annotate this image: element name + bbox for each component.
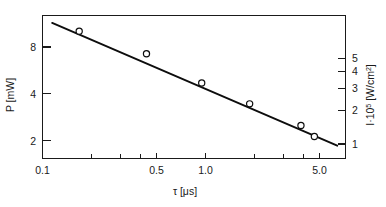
y-tick-label-right: 1 [352,138,358,150]
data-point [76,28,82,34]
data-point [311,133,317,139]
y-tick-label-left: 8 [30,41,36,53]
data-point [298,122,304,128]
x-tick-label: 0.1 [35,164,50,176]
x-tick-label: 1.0 [198,164,213,176]
x-axis-title: τ [μs] [173,185,197,197]
data-point-markers [76,28,317,139]
y-axis-left-ticks [43,47,51,141]
chart-figure: 0.1 0.5 1.0 5.0 τ [μs] 8 4 2 P [mW] [0,0,386,207]
y-axis-title-right: I·105 [W/cm2] [364,64,376,126]
y-tick-label-right: 4 [352,65,358,77]
y-tick-label-left: 4 [30,88,36,100]
x-tick-label: 0.5 [149,164,164,176]
data-point [247,101,253,107]
y-tick-label-right: 3 [352,82,358,94]
fit-line [52,23,337,146]
right-title-tail: [W/cm [364,71,376,104]
x-axis-tick-labels: 0.1 0.5 1.0 5.0 [35,164,327,176]
data-point [143,51,149,57]
right-title-main: I·10 [364,107,376,125]
chart-svg: 0.1 0.5 1.0 5.0 τ [μs] 8 4 2 P [mW] [0,0,386,207]
y-axis-right-ticks [338,59,346,144]
y-tick-label-right: 2 [352,104,358,116]
data-point [199,80,205,86]
y-axis-title-left: P [mW] [4,78,16,112]
y-axis-right-tick-labels: 1 2 3 4 5 [352,52,358,149]
plot-frame [43,16,346,159]
right-title-end: ] [364,64,376,67]
y-tick-label-left: 2 [30,135,36,147]
y-tick-label-right: 5 [352,52,358,64]
y-axis-left-tick-labels: 8 4 2 [30,41,36,147]
x-tick-label: 5.0 [312,164,327,176]
x-axis-ticks [43,153,320,159]
